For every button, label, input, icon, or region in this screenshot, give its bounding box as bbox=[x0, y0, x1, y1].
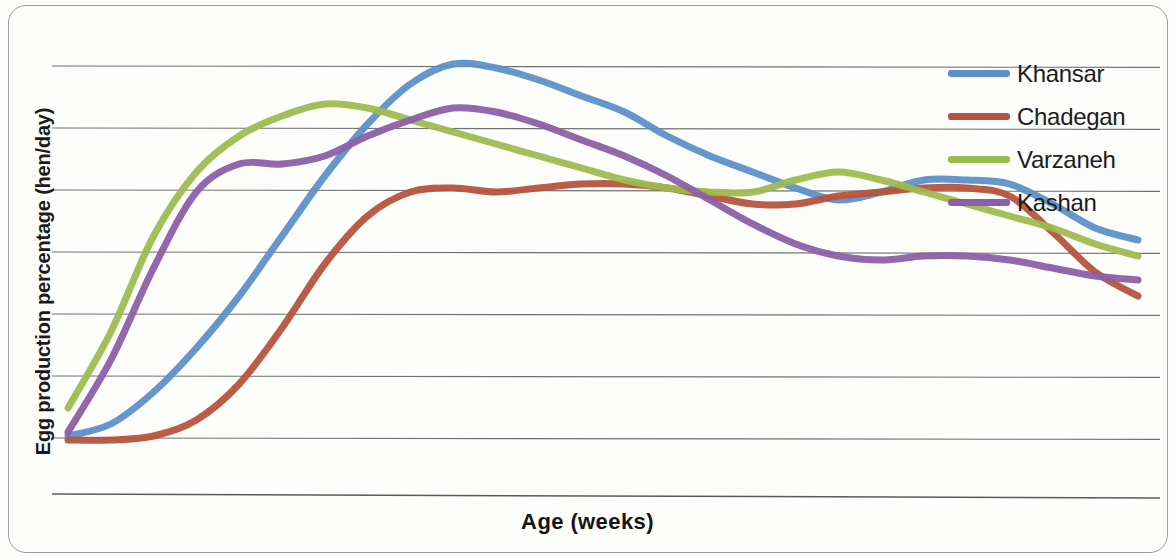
legend-item-chadegan[interactable]: Chadegan bbox=[948, 95, 1168, 138]
gridline bbox=[52, 438, 1160, 439]
legend-label: Kashan bbox=[1017, 189, 1097, 217]
legend-swatch-icon bbox=[948, 70, 1010, 77]
y-axis-title: Egg production percentage (hen/day) bbox=[32, 72, 55, 492]
legend-swatch-icon bbox=[948, 113, 1010, 120]
line-chart: Egg production percentage (hen/day) Age … bbox=[0, 0, 1175, 560]
legend-label: Varzaneh bbox=[1017, 146, 1116, 174]
gridline bbox=[52, 376, 1160, 377]
legend-item-khansar[interactable]: Khansar bbox=[948, 52, 1168, 95]
legend-item-varzaneh[interactable]: Varzaneh bbox=[948, 138, 1168, 181]
legend-label: Khansar bbox=[1017, 60, 1104, 88]
legend-label: Chadegan bbox=[1017, 103, 1125, 131]
legend-swatch-icon bbox=[948, 156, 1010, 163]
legend-item-kashan[interactable]: Kashan bbox=[948, 181, 1168, 224]
legend-swatch-icon bbox=[948, 199, 1010, 206]
gridline bbox=[52, 314, 1160, 315]
scanned-page-background: Egg production percentage (hen/day) Age … bbox=[0, 0, 1175, 560]
x-axis-line bbox=[52, 494, 1160, 498]
x-axis-title: Age (weeks) bbox=[0, 509, 1175, 535]
chart-legend: KhansarChadeganVarzanehKashan bbox=[948, 52, 1168, 224]
gridline bbox=[52, 252, 1160, 253]
